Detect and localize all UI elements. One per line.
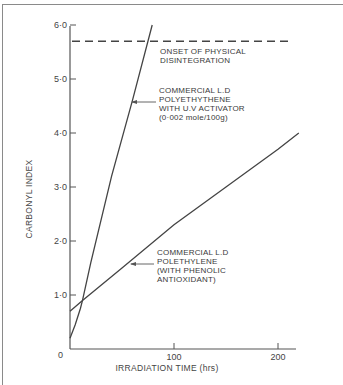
y-tick-label: 3·0 xyxy=(54,182,67,192)
svg-text:POLETHYLENE: POLETHYLENE xyxy=(157,257,217,266)
y-axis-title: CARBONYL INDEX xyxy=(24,159,34,238)
svg-text:DISINTEGRATION: DISINTEGRATION xyxy=(160,56,230,65)
series-uv-activator xyxy=(70,25,152,338)
svg-text:(0·002 mole/100g): (0·002 mole/100g) xyxy=(159,113,228,122)
x-tick-label: 200 xyxy=(270,352,285,362)
annotation-disintegration: ONSET OF PHYSICAL DISINTEGRATION xyxy=(160,47,246,65)
y-tick-label: 5·0 xyxy=(54,74,67,84)
arrow-uv-activator xyxy=(131,100,156,104)
y-tick-label: 0 xyxy=(58,350,63,360)
y-tick-label: 6·0 xyxy=(54,20,67,30)
svg-text:(WITH PHENOLIC: (WITH PHENOLIC xyxy=(157,266,226,275)
annotation-phenolic-antioxidant: COMMERCIAL L.D POLETHYLENE (WITH PHENOLI… xyxy=(157,248,228,284)
y-tick-label: 2·0 xyxy=(54,236,67,246)
y-tick-label: 4·0 xyxy=(54,128,67,138)
svg-text:COMMERCIAL L.D: COMMERCIAL L.D xyxy=(159,86,230,95)
annotation-uv-activator: COMMERCIAL L.D POLYETHYTHENE WITH U.V AC… xyxy=(159,86,245,122)
series-phenolic-antioxidant xyxy=(70,133,299,311)
svg-text:ANTIOXIDANT): ANTIOXIDANT) xyxy=(157,275,216,284)
svg-text:WITH U.V ACTIVATOR: WITH U.V ACTIVATOR xyxy=(159,104,245,113)
svg-text:ONSET OF PHYSICAL: ONSET OF PHYSICAL xyxy=(160,47,246,56)
y-tick-label: 1·0 xyxy=(54,290,67,300)
x-axis: 100200 xyxy=(70,343,296,362)
svg-text:POLYETHYTHENE: POLYETHYTHENE xyxy=(159,95,231,104)
x-axis-title: IRRADIATION TIME (hrs) xyxy=(115,363,218,373)
svg-text:COMMERCIAL L.D: COMMERCIAL L.D xyxy=(157,248,228,257)
x-tick-label: 100 xyxy=(166,352,181,362)
arrow-phenolic-antioxidant xyxy=(130,262,154,266)
